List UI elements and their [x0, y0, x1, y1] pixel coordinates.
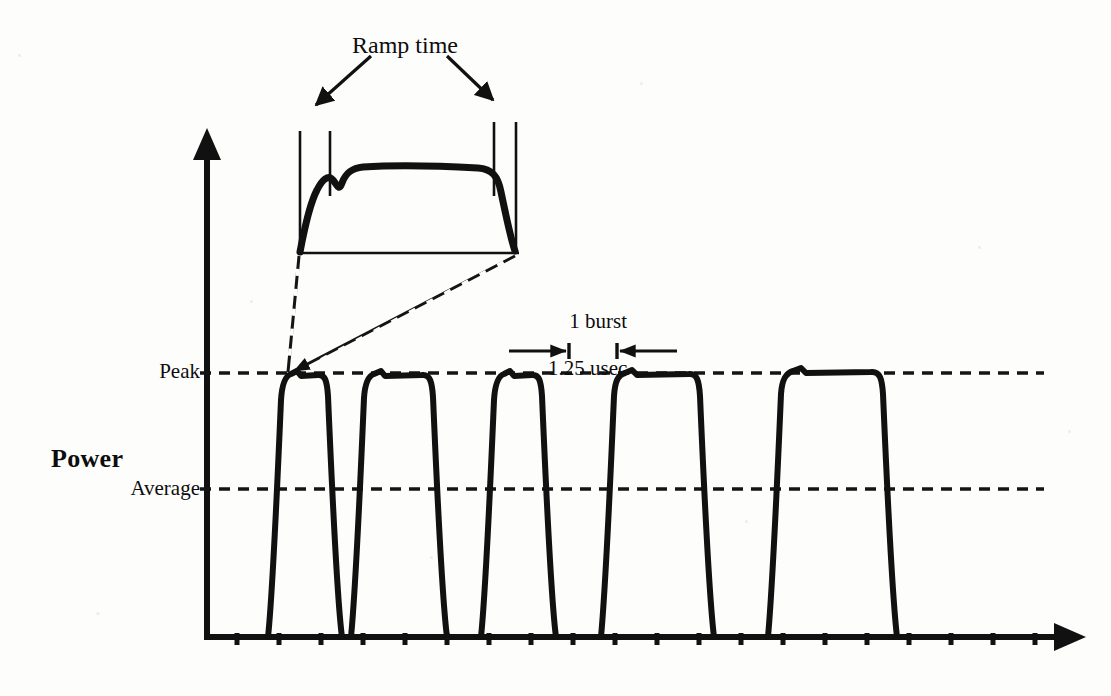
- burst-2: [351, 371, 447, 637]
- burst-3: [481, 371, 556, 637]
- x-axis-arrowhead: [1054, 623, 1086, 651]
- burst-duration-line1: 1 burst: [569, 309, 627, 333]
- ramp-time-arrow-left: [316, 56, 371, 105]
- y-tick-label-peak: Peak: [110, 360, 200, 384]
- burst-duration-label: 1 burst 1.25 usec: [548, 286, 627, 427]
- inset-magnified-burst: [299, 122, 519, 253]
- ramp-time-label: Ramp time: [352, 32, 458, 59]
- ramp-time-arrow-right: [447, 56, 493, 100]
- y-axis-arrowhead: [193, 128, 221, 160]
- y-axis-label-power: Power: [51, 444, 123, 473]
- burst-duration-line2: 1.25 usec: [548, 357, 627, 381]
- inset-burst-waveform: [300, 166, 515, 252]
- ramp-time-arrows: [316, 56, 493, 105]
- y-tick-label-average: Average: [80, 477, 200, 501]
- figure-page: Ramp time 1 burst 1.25 usec Power Peak A…: [0, 0, 1111, 696]
- burst-1: [268, 371, 342, 637]
- burst-5: [768, 368, 897, 637]
